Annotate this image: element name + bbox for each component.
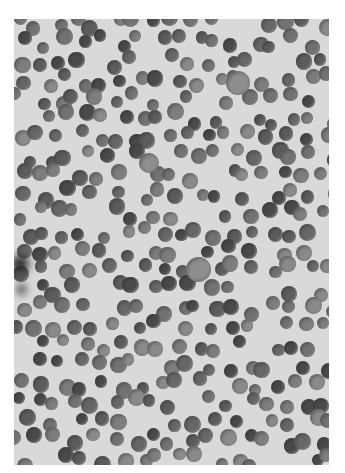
nucleus xyxy=(205,34,218,47)
nucleus xyxy=(244,260,258,274)
nucleus xyxy=(86,428,99,441)
nucleus xyxy=(230,415,243,428)
nucleus xyxy=(254,431,270,447)
nucleus xyxy=(114,335,128,349)
nucleus xyxy=(95,375,107,387)
nucleus xyxy=(68,394,82,408)
nucleus xyxy=(160,437,174,451)
nucleus xyxy=(56,28,73,45)
nucleus xyxy=(203,129,216,142)
nucleus xyxy=(14,57,31,74)
nucleus xyxy=(94,29,107,42)
nucleus xyxy=(37,42,49,54)
nucleus xyxy=(14,19,27,25)
nucleus xyxy=(296,361,310,375)
nucleus xyxy=(58,68,71,81)
nucleus xyxy=(301,145,316,160)
nucleus xyxy=(67,320,82,335)
nucleus xyxy=(284,341,298,355)
nucleus xyxy=(223,299,240,316)
nucleus xyxy=(266,414,278,426)
nucleus xyxy=(128,389,145,406)
nucleus xyxy=(259,397,273,411)
nucleus xyxy=(159,263,171,275)
nucleus xyxy=(202,390,215,403)
nucleus xyxy=(246,226,258,238)
nucleus xyxy=(108,134,123,149)
nucleus xyxy=(162,168,175,181)
nucleus xyxy=(122,19,139,27)
nucleus xyxy=(19,409,36,426)
nucleus xyxy=(160,400,176,416)
nucleus xyxy=(241,243,257,259)
nucleus xyxy=(241,319,253,331)
nucleus xyxy=(327,152,329,167)
nucleus xyxy=(301,112,313,124)
nucleus xyxy=(293,168,308,183)
nucleus xyxy=(208,412,222,426)
nucleus xyxy=(72,451,86,465)
nucleus xyxy=(81,337,95,351)
nucleus xyxy=(102,258,117,273)
nucleus xyxy=(191,148,207,164)
nucleus xyxy=(51,355,63,367)
nucleus xyxy=(35,201,47,213)
nucleus xyxy=(253,362,269,378)
nucleus xyxy=(205,19,218,25)
nucleus xyxy=(134,322,146,334)
nucleus xyxy=(121,250,134,263)
nucleus xyxy=(201,246,214,259)
nucleus xyxy=(33,58,47,72)
nucleus xyxy=(92,355,107,370)
nucleus xyxy=(86,88,103,105)
nucleus xyxy=(100,148,115,163)
nucleus xyxy=(186,257,211,282)
nucleus xyxy=(272,344,284,356)
nucleus xyxy=(283,28,298,43)
nucleus xyxy=(193,371,207,385)
nucleus xyxy=(235,192,249,206)
nucleus xyxy=(111,164,127,180)
nucleus xyxy=(147,448,161,462)
nucleus xyxy=(18,31,32,45)
nucleus xyxy=(129,30,141,42)
nucleus xyxy=(320,259,329,272)
nucleus xyxy=(79,35,92,48)
nucleus xyxy=(198,428,213,443)
nucleus xyxy=(166,372,182,388)
nucleus xyxy=(82,145,95,158)
nucleus xyxy=(163,212,178,227)
nucleus xyxy=(240,124,255,139)
nucleus xyxy=(262,41,274,53)
nucleus xyxy=(174,144,188,158)
nucleus xyxy=(49,129,62,142)
nucleus xyxy=(319,66,329,80)
nucleus xyxy=(280,316,293,329)
nucleus xyxy=(219,400,231,412)
nucleus xyxy=(27,125,42,140)
nucleus xyxy=(223,38,237,52)
nucleus xyxy=(17,303,32,318)
nucleus xyxy=(76,413,88,425)
nucleus xyxy=(296,53,313,70)
nucleus xyxy=(14,213,26,225)
nucleus xyxy=(283,87,297,101)
nucleus xyxy=(14,430,21,446)
nucleus xyxy=(279,166,291,178)
nucleus xyxy=(167,103,184,120)
nucleus xyxy=(82,185,97,200)
nucleus xyxy=(139,153,159,173)
nucleus xyxy=(92,243,107,258)
nucleus xyxy=(76,124,90,138)
nucleus xyxy=(300,342,315,357)
nucleus xyxy=(158,30,172,44)
nucleus xyxy=(54,297,71,314)
nucleus xyxy=(147,99,159,111)
nucleus xyxy=(71,228,84,241)
nucleus xyxy=(186,300,199,313)
nucleus xyxy=(147,70,163,86)
nucleus xyxy=(122,353,134,365)
nucleus xyxy=(208,190,221,203)
nucleus xyxy=(328,186,329,202)
nucleus xyxy=(326,305,329,319)
